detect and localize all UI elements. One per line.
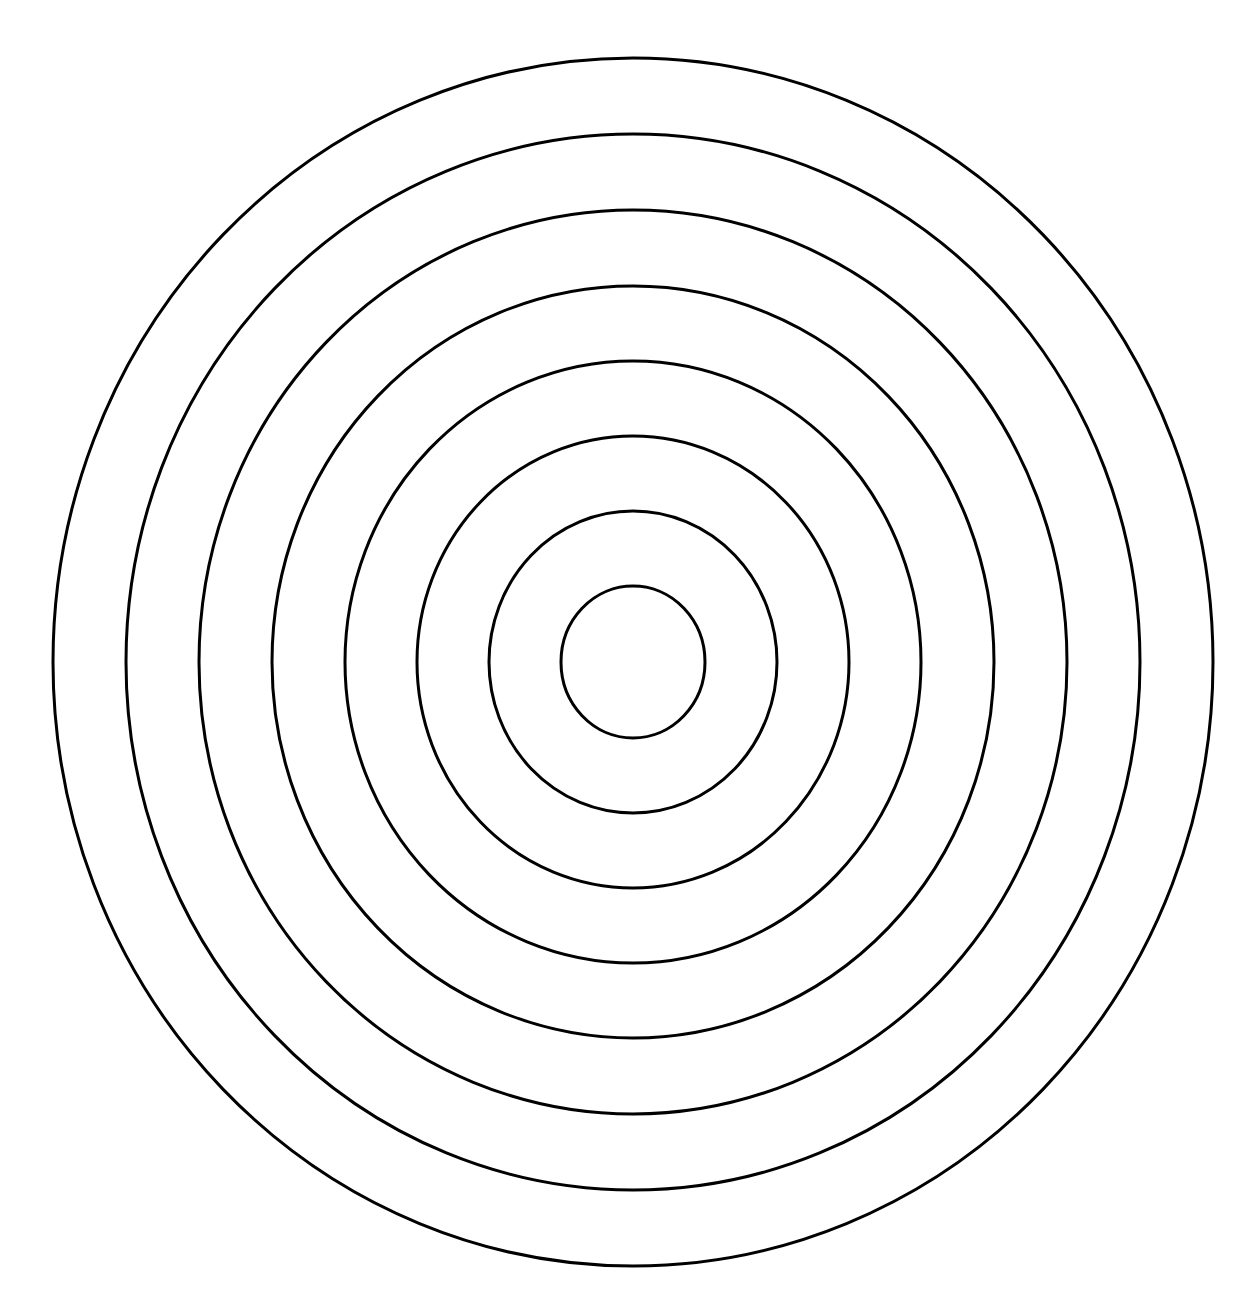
concentric-rings-diagram bbox=[0, 0, 1256, 1312]
